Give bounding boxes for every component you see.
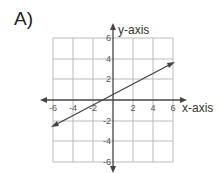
svg-text:2: 2 xyxy=(106,74,111,84)
x-axis-left-arrow-icon xyxy=(40,97,47,103)
svg-text:6: 6 xyxy=(170,103,175,113)
y-axis-label: y-axis xyxy=(118,23,149,37)
svg-text:-6: -6 xyxy=(49,103,57,113)
y-axis-down-arrow-icon xyxy=(110,166,116,173)
svg-text:6: 6 xyxy=(106,33,111,43)
line-left-arrow-icon xyxy=(51,121,59,127)
svg-text:-4: -4 xyxy=(103,136,111,146)
svg-text:-4: -4 xyxy=(69,103,77,113)
y-axis xyxy=(110,23,116,173)
svg-text:4: 4 xyxy=(106,54,111,64)
y-axis-up-arrow-icon xyxy=(110,23,116,30)
svg-text:4: 4 xyxy=(150,103,155,113)
line-right-arrow-icon xyxy=(167,62,175,68)
svg-text:-2: -2 xyxy=(103,116,111,126)
svg-text:2: 2 xyxy=(130,103,135,113)
x-tick-labels: -6 -4 -2 2 4 6 xyxy=(49,103,176,113)
coordinate-plane: -6 -4 -2 2 4 6 6 4 2 -2 -4 -6 y-axis x-a… xyxy=(0,0,221,173)
svg-text:-6: -6 xyxy=(103,157,111,167)
x-axis-label: x-axis xyxy=(182,101,213,115)
